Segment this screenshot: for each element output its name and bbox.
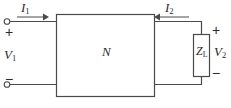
voltage-label-v1: V1: [4, 48, 16, 61]
output-bottom-wire: [155, 77, 202, 85]
voltage-label-v1-symbol: V: [4, 47, 12, 62]
load-impedance-label-symbol: Z: [196, 44, 203, 58]
voltage-label-v1-subscript: 1: [12, 53, 16, 63]
arrow-right-icon-head: [43, 14, 49, 21]
current-label-i1: I1: [21, 1, 30, 14]
current-label-i2: I2: [165, 1, 174, 14]
polarity-output-positive: +: [210, 23, 222, 37]
voltage-label-v2-subscript: 2: [222, 50, 226, 60]
voltage-label-v2: V2: [214, 45, 226, 58]
polarity-input-negative: −: [3, 72, 15, 86]
current-label-i2-subscript: 2: [169, 6, 173, 16]
polarity-output-negative: −: [210, 66, 222, 80]
output-top-wire: [155, 22, 202, 35]
current-label-i1-subscript: 1: [25, 6, 29, 16]
polarity-input-positive: +: [3, 25, 15, 39]
load-impedance-label: ZL: [196, 45, 208, 57]
voltage-label-v2-symbol: V: [214, 44, 222, 59]
circuit-diagram-figure: I1 I2 V1 V2 N ZL + − + −: [0, 0, 231, 108]
load-impedance-label-subscript: L: [203, 50, 208, 59]
network-label: N: [102, 45, 111, 58]
